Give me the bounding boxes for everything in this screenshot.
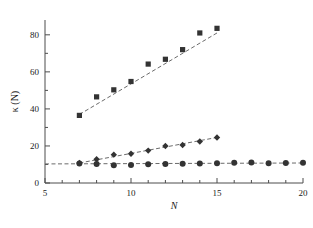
y-tick-label: 0 (35, 178, 40, 188)
data-point-square (77, 113, 82, 118)
y-tick-label: 80 (30, 30, 40, 40)
x-tick-label: 10 (127, 188, 137, 198)
data-point-diamond (145, 147, 151, 153)
data-point-circle (128, 162, 134, 168)
data-point-circle (283, 160, 289, 166)
data-point-circle (162, 161, 168, 167)
data-point-circle (300, 160, 306, 166)
data-point-circle (111, 162, 117, 168)
data-point-diamond (179, 142, 185, 148)
data-point-square (214, 26, 219, 31)
data-point-square (128, 79, 133, 84)
y-tick-label: 40 (30, 104, 40, 114)
trend-line-circles (45, 163, 303, 164)
data-point-circle (231, 160, 237, 166)
data-point-diamond (214, 134, 220, 140)
data-point-circle (266, 160, 272, 166)
data-point-circle (180, 161, 186, 167)
data-point-square (146, 61, 151, 66)
trend-line-squares (79, 33, 217, 115)
x-tick-label: 15 (213, 188, 223, 198)
data-point-square (111, 87, 116, 92)
y-tick-label: 60 (30, 67, 40, 77)
x-tick-label: 20 (299, 188, 309, 198)
data-point-diamond (162, 143, 168, 149)
x-axis-title: N (170, 200, 179, 211)
data-point-circle (76, 161, 82, 167)
scatter-plot: 0204060805101520Nκ (N) (0, 0, 313, 228)
chart-figure: 0204060805101520Nκ (N) (0, 0, 313, 228)
x-tick-label: 5 (43, 188, 48, 198)
data-point-circle (94, 161, 100, 167)
data-point-diamond (197, 138, 203, 144)
data-point-square (180, 47, 185, 52)
data-point-diamond (128, 151, 134, 157)
data-point-circle (214, 160, 220, 166)
data-point-circle (197, 161, 203, 167)
data-point-square (94, 94, 99, 99)
data-point-square (163, 57, 168, 62)
data-point-circle (145, 161, 151, 167)
data-point-square (197, 30, 202, 35)
y-tick-label: 20 (30, 141, 40, 151)
data-point-circle (248, 159, 254, 165)
y-axis-title: κ (N) (9, 91, 21, 112)
